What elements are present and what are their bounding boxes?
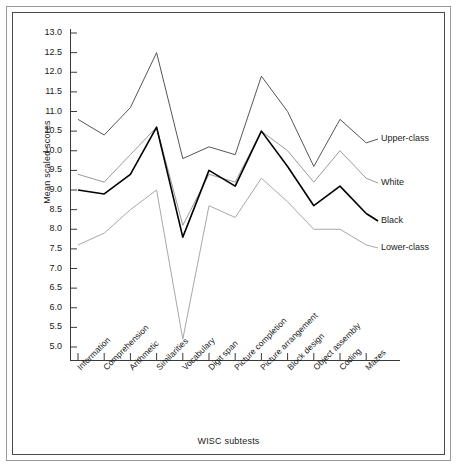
y-tick-label: 12.5 — [32, 47, 62, 57]
chart-figure: 13.012.512.011.511.010.510.09.59.08.58.0… — [0, 0, 457, 467]
legend-item-white: White — [381, 177, 404, 187]
y-tick-label: 6.5 — [32, 282, 62, 292]
y-tick-label: 6.0 — [32, 302, 62, 312]
x-axis-title: WISC subtests — [0, 436, 457, 446]
y-tick-label: 12.0 — [32, 66, 62, 76]
line-chart-plot — [0, 0, 457, 467]
legend-item-lower-class: Lower-class — [381, 242, 429, 252]
y-tick-label: 13.0 — [32, 27, 62, 37]
legend-item-upper-class: Upper-class — [381, 133, 429, 143]
y-tick-label: 7.5 — [32, 243, 62, 253]
y-tick-label: 7.0 — [32, 263, 62, 273]
y-tick-label: 8.0 — [32, 223, 62, 233]
legend-item-black: Black — [381, 215, 403, 225]
y-tick-label: 5.0 — [32, 341, 62, 351]
y-tick-label: 5.5 — [32, 321, 62, 331]
y-tick-label: 11.5 — [32, 86, 62, 96]
y-axis-title: Mean scaled scores — [42, 102, 52, 222]
